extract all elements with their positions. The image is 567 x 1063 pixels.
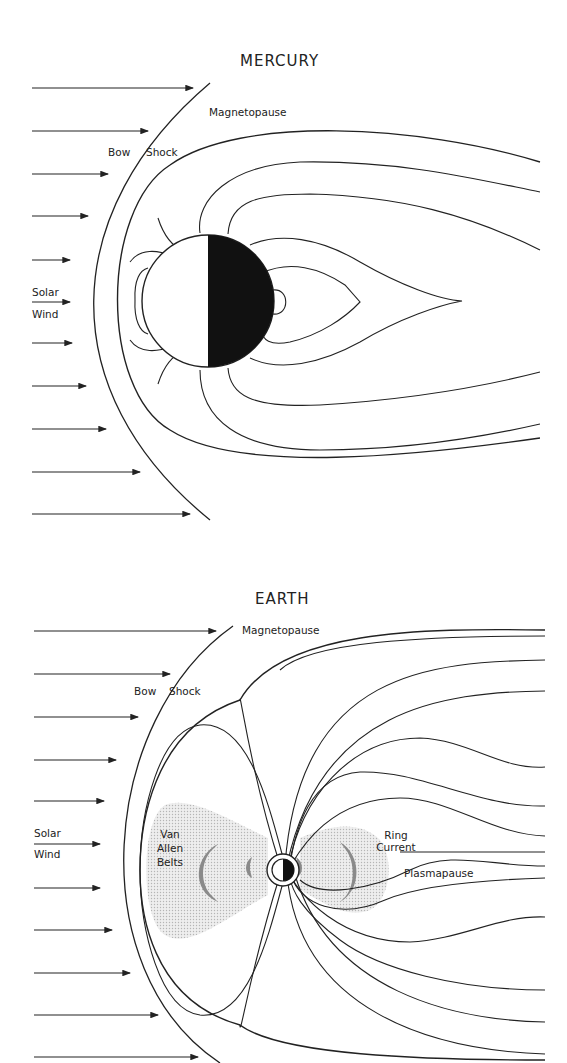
mercury-title: MERCURY	[240, 52, 319, 70]
earth-diagram: EARTH Magnetopause Bow Shock Solar Wind …	[0, 570, 567, 1063]
earth-title: EARTH	[255, 590, 310, 608]
earth-current-label: Current	[370, 841, 422, 854]
earth-wind-label: Wind	[34, 848, 60, 861]
earth-belts-label: Belts	[150, 856, 190, 869]
mercury-diagram: MERCURY Magnetopause Bow Shock Solar Win…	[0, 0, 567, 540]
earth-van-label: Van	[150, 828, 190, 841]
earth-allen-label: Allen	[150, 842, 190, 855]
mercury-bow-label: Bow	[108, 146, 130, 159]
mercury-magnetopause-label: Magnetopause	[209, 106, 287, 119]
earth-solar-label: Solar	[34, 827, 61, 840]
earth-shock-label: Shock	[169, 685, 201, 698]
earth-magnetopause-label: Magnetopause	[242, 624, 320, 637]
mercury-solar-label: Solar	[32, 286, 59, 299]
mercury-shock-label: Shock	[146, 146, 178, 159]
earth-magnetosphere-drawing	[0, 570, 567, 1063]
earth-plasmapause-label: Plasmapause	[404, 867, 474, 880]
earth-bow-label: Bow	[134, 685, 156, 698]
mercury-magnetosphere-drawing	[0, 0, 567, 540]
mercury-wind-label: Wind	[32, 308, 58, 321]
